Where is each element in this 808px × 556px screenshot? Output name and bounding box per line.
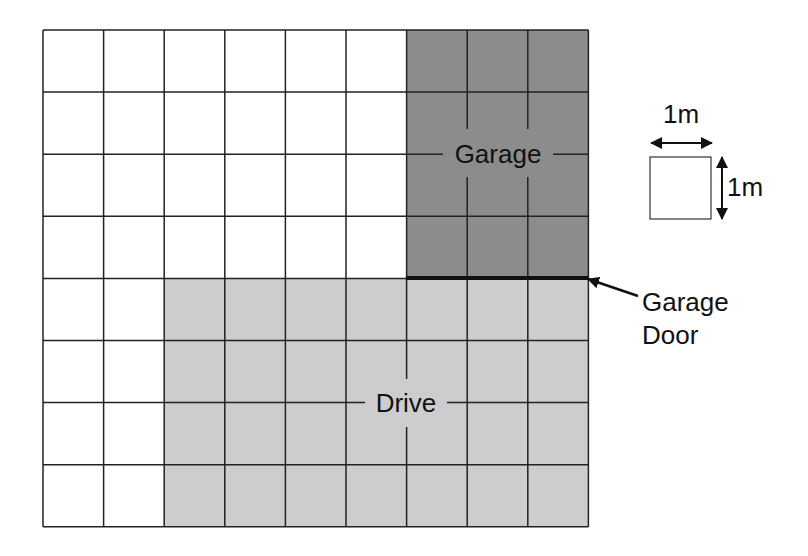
scale-square	[650, 157, 711, 219]
scale-width-label: 1m	[663, 99, 699, 129]
garage-drive-diagram: Garage Drive Garage Door 1m 1m	[0, 0, 808, 556]
garage-label: Garage	[455, 139, 542, 169]
drive-label: Drive	[376, 388, 437, 418]
garage-door-label-line1: Garage	[642, 287, 729, 317]
garage-door-label-line2: Door	[642, 320, 699, 350]
scale-height-label: 1m	[727, 172, 763, 202]
garage-door-pointer-arrow	[588, 279, 638, 296]
